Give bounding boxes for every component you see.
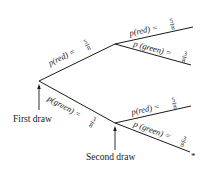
asterisk-marker: * [191,151,196,161]
frac-first-red-den: 8 [86,44,92,52]
probability-tree-diagram: p(red) = 5 8 p(green) = 3 8 p(red) = 5 8… [0,0,217,173]
frac-red-red-den: 8 [170,24,175,32]
frac-green-green-den: 8 [180,141,185,149]
label-red-green: p (green) = [132,38,173,58]
second-draw-caption: Second draw [86,152,135,162]
second-draw-arrowhead [113,126,117,131]
frac-green-red-den: 8 [172,103,177,111]
frac-red-green-den: 8 [181,56,186,64]
label-green-red: p(red) = [129,101,160,117]
frac-first-green-den: 8 [88,121,94,129]
first-draw-arrowhead [37,84,41,89]
first-draw-caption: First draw [13,114,52,124]
